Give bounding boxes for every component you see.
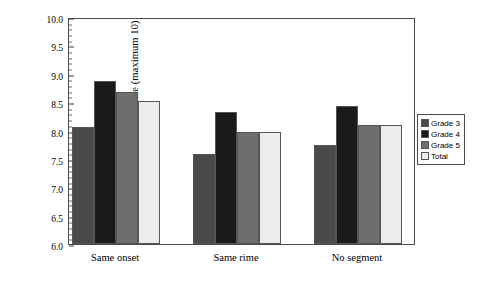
legend-swatch-icon: [421, 130, 429, 138]
y-axis-tick-label: 6.0: [51, 242, 63, 252]
bar: [237, 132, 259, 244]
bar: [72, 127, 94, 244]
x-axis-category-label: No segment: [297, 252, 417, 263]
bar-group: [314, 19, 402, 244]
y-axis-tick-label: 8.0: [51, 128, 63, 138]
bar: [259, 132, 281, 244]
y-axis-tick-label: 10.0: [46, 15, 63, 25]
y-axis-tick-label: 7.0: [51, 185, 63, 195]
x-axis-category-label: Same onset: [55, 252, 175, 263]
legend-item-label: Total: [431, 152, 448, 161]
y-axis-tick-label: 9.5: [51, 43, 63, 53]
legend-item[interactable]: Grade 4: [421, 129, 460, 139]
y-axis-tick-label: 9.0: [51, 71, 63, 81]
y-axis-tick-label: 8.5: [51, 100, 63, 110]
bar: [116, 92, 138, 244]
bar: [138, 101, 160, 244]
chart-screenshot: Mean score (maximum 10) 10.09.59.08.58.0…: [0, 0, 491, 285]
bar: [380, 125, 402, 244]
legend-swatch-icon: [421, 119, 429, 127]
legend-item[interactable]: Total: [421, 151, 460, 161]
legend-item[interactable]: Grade 3: [421, 118, 460, 128]
bar: [193, 154, 215, 244]
legend-item-label: Grade 4: [431, 130, 460, 139]
bar: [215, 112, 237, 244]
bar-group: [72, 19, 160, 244]
bar-group: [193, 19, 281, 244]
y-axis-tick: 6.0: [69, 246, 74, 247]
bar: [336, 106, 358, 244]
plot-area: Mean score (maximum 10) 10.09.59.08.58.0…: [68, 18, 415, 245]
bar: [94, 81, 116, 244]
legend-item-label: Grade 5: [431, 141, 460, 150]
y-axis-tick-label: 6.5: [51, 213, 63, 223]
chart-legend: Grade 3Grade 4Grade 5Total: [417, 114, 465, 165]
legend-swatch-icon: [421, 152, 429, 160]
legend-item-label: Grade 3: [431, 119, 460, 128]
bar: [314, 145, 336, 244]
legend-item[interactable]: Grade 5: [421, 140, 460, 150]
y-axis-tick-label: 7.5: [51, 156, 63, 166]
x-axis-category-label: Same rime: [176, 252, 296, 263]
legend-swatch-icon: [421, 141, 429, 149]
bar: [358, 125, 380, 244]
